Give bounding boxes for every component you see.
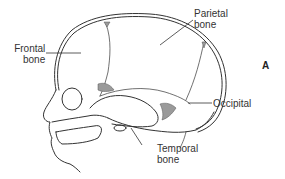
frontal-bone-label: Frontal bone bbox=[14, 43, 45, 65]
parietal-label-line1: Parietal bbox=[194, 8, 228, 19]
mastoid-process bbox=[114, 125, 126, 131]
panel-letter: A bbox=[262, 60, 269, 71]
temporal-bone-contour bbox=[90, 96, 158, 127]
maxilla bbox=[52, 115, 108, 122]
frontal-label-line2: bone bbox=[14, 54, 45, 65]
occipital-label-line1: Occipital bbox=[213, 98, 251, 109]
temporal-label-line1: Temporal bbox=[157, 143, 198, 154]
mastoid-fontanelle bbox=[160, 103, 176, 120]
occipital-label: Occipital bbox=[213, 98, 251, 109]
anterior-fontanelle bbox=[104, 22, 110, 27]
parietal-bone-label: Parietal bone bbox=[194, 8, 228, 30]
frontal-label-line1: Frontal bbox=[14, 43, 45, 54]
temporal-leader-line bbox=[131, 128, 142, 145]
sphenoidal-fontanelle bbox=[98, 83, 114, 91]
skull-outer-contour bbox=[55, 14, 227, 132]
skull-inner-contour bbox=[58, 17, 223, 129]
temporal-label-line2: bone bbox=[157, 154, 198, 165]
temporal-bone-label: Temporal bone bbox=[157, 143, 198, 165]
parietal-leader-line bbox=[160, 20, 193, 45]
infant-skull-diagram bbox=[0, 0, 285, 179]
mandible bbox=[56, 126, 101, 144]
parietal-label-line2: bone bbox=[194, 19, 228, 30]
skull-base bbox=[108, 112, 214, 132]
orbit bbox=[62, 88, 82, 110]
lambdoid-suture bbox=[186, 42, 204, 100]
